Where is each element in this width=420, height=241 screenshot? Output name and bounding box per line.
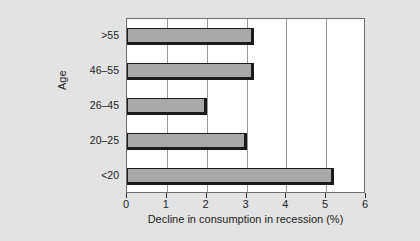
bar-row xyxy=(127,19,366,54)
y-tick-label: <20 xyxy=(59,169,119,181)
bar-row xyxy=(127,159,366,194)
x-tick-label: 1 xyxy=(154,198,178,210)
bar xyxy=(127,133,247,150)
bar xyxy=(127,63,254,80)
x-tick-label: 2 xyxy=(194,198,218,210)
y-axis: <2020–2526–4546–55>55 xyxy=(55,18,119,193)
bar xyxy=(127,28,254,45)
chart-figure: 0123456 <2020–2526–4546–55>55 Decline in… xyxy=(0,0,420,241)
y-tick-label: 26–45 xyxy=(59,99,119,111)
y-tick-label: 46–55 xyxy=(59,64,119,76)
x-axis-title: Decline in consumption in recession (%) xyxy=(126,213,365,225)
y-axis-title: Age xyxy=(56,70,68,90)
x-tick-label: 5 xyxy=(313,198,337,210)
bar-row xyxy=(127,124,366,159)
plot-area xyxy=(126,18,365,193)
bar xyxy=(127,168,334,185)
x-tick-label: 6 xyxy=(353,198,377,210)
bar-row xyxy=(127,89,366,124)
bar-row xyxy=(127,54,366,89)
y-tick-label: >55 xyxy=(59,29,119,41)
x-tick-label: 0 xyxy=(114,198,138,210)
bar xyxy=(127,98,207,115)
x-tick-label: 4 xyxy=(273,198,297,210)
y-tick-label: 20–25 xyxy=(59,134,119,146)
x-tick-label: 3 xyxy=(234,198,258,210)
